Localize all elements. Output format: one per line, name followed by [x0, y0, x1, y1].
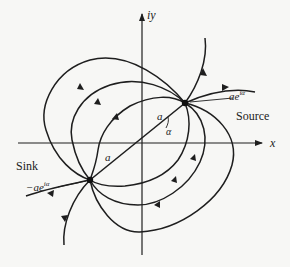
sink-value: −aeiα	[26, 181, 49, 193]
lower-segment-label: a	[105, 152, 111, 163]
source-value-exp: iα	[239, 89, 245, 97]
y-axis-label: iy	[147, 9, 156, 21]
angle-label: α	[166, 127, 171, 137]
streamlines	[26, 38, 255, 245]
sink-value-base: ae	[33, 181, 43, 193]
upper-segment-label: a	[157, 111, 163, 122]
x-axis-label: x	[270, 137, 275, 149]
source-point	[182, 100, 188, 106]
streamline-sink-down	[64, 180, 90, 245]
sink-point	[87, 177, 93, 183]
source-label: Source	[236, 110, 269, 122]
streamline-lr-3	[90, 103, 189, 186]
flow-arrows	[47, 68, 229, 222]
sink-label: Sink	[16, 160, 38, 172]
sink-value-exp: iα	[44, 180, 50, 188]
sink-leader	[58, 181, 86, 187]
source-sink-diagram	[0, 0, 290, 267]
source-value-base: ae	[229, 90, 239, 102]
source-value: aeiα	[229, 90, 245, 102]
